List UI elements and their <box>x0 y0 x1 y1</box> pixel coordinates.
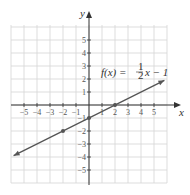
x-tick-label: 3 <box>126 108 130 117</box>
y-tick-label: 1 <box>82 88 86 97</box>
data-point <box>113 103 117 107</box>
function-label: f(x) = <box>101 66 126 79</box>
x-tick-label: −4 <box>33 108 42 117</box>
x-tick-label: 4 <box>139 108 143 117</box>
x-axis-label: x <box>178 106 184 118</box>
y-tick-label: −5 <box>77 166 86 175</box>
y-tick-label: −4 <box>77 153 86 162</box>
function-graph: x y −5−4−3−2−11234554321−1−2−3−4−5 f(x) … <box>0 0 190 195</box>
y-tick-label: 2 <box>82 75 86 84</box>
x-tick-label: −3 <box>46 108 55 117</box>
x-tick-label: 2 <box>113 108 117 117</box>
x-tick-label: −2 <box>59 108 68 117</box>
data-point <box>61 129 65 133</box>
x-tick-label: 5 <box>152 108 156 117</box>
y-tick-label: 3 <box>82 62 86 71</box>
y-axis-arrow-icon <box>86 11 92 18</box>
y-tick-label: 5 <box>82 36 86 45</box>
data-point <box>87 116 91 120</box>
y-tick-label: −2 <box>77 127 86 136</box>
y-axis-label: y <box>79 7 85 19</box>
function-label-prefix: f(x) = <box>101 66 126 79</box>
y-tick-label: 4 <box>82 49 86 58</box>
function-label-suffix: x − 1 <box>144 66 168 78</box>
x-tick-label: −5 <box>20 108 29 117</box>
y-tick-label: −3 <box>77 140 86 149</box>
fraction-denominator: 2 <box>138 69 144 81</box>
